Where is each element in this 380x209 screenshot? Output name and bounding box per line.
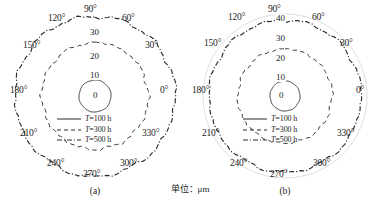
angle-label-a-120: 120°	[48, 13, 65, 23]
angle-label-a-210: 210°	[20, 128, 37, 138]
radial-label-b-0: 0	[278, 91, 285, 100]
angle-label-b-0: 0°	[356, 85, 364, 95]
curve-b-dashdot	[209, 20, 361, 172]
angle-label-b-330: 330°	[337, 128, 354, 138]
angle-label-a-0: 0°	[160, 85, 168, 95]
angle-label-b-270: 270°	[270, 169, 287, 179]
angle-label-a-90: 90°	[84, 4, 97, 14]
legend-label-a-2: T=500 h	[85, 135, 111, 146]
angle-label-b-240: 240°	[230, 158, 247, 168]
angle-label-b-60: 60°	[312, 12, 325, 22]
polar-panel-b: 90° 120° 60° 150° 30° 180° 0° 210° 330° …	[190, 0, 380, 195]
angle-label-a-150: 150°	[23, 40, 40, 50]
radial-label-a-10: 10	[89, 71, 100, 80]
radial-label-b-40: 40	[275, 14, 286, 23]
legend-label-a-0: T=100 h	[85, 114, 111, 125]
angle-label-b-210: 210°	[202, 128, 219, 138]
angle-label-a-270: 270°	[83, 169, 100, 179]
angle-label-b-300: 300°	[313, 158, 330, 168]
radial-label-a-20: 20	[89, 52, 100, 61]
unit-caption: 单位：μm	[0, 182, 380, 195]
legend-key-dashed-icon	[56, 126, 82, 134]
polar-panel-a: 90° 120° 60° 150° 30° 180° 0° 210° 330° …	[0, 0, 190, 195]
angle-label-b-150: 150°	[204, 38, 221, 48]
angle-label-b-30: 30°	[340, 38, 353, 48]
angle-label-a-330: 330°	[142, 128, 159, 138]
legend-key-solid-icon	[242, 115, 268, 123]
angle-label-a-240: 240°	[47, 158, 64, 168]
legend-item-b-2: T=500 h	[242, 135, 330, 146]
legend-item-a-1: T=300 h	[56, 125, 144, 136]
angle-label-b-180: 180°	[192, 85, 209, 95]
polar-chart-figure: 90° 120° 60° 150° 30° 180° 0° 210° 330° …	[0, 0, 380, 209]
angle-label-a-60: 60°	[122, 13, 135, 23]
legend-key-dashdot-icon	[242, 136, 268, 144]
radial-label-b-20: 20	[275, 54, 286, 63]
angle-label-a-300: 300°	[120, 158, 137, 168]
polar-plot-b	[190, 0, 380, 195]
legend-key-solid-icon	[56, 115, 82, 123]
radial-label-a-0: 0	[92, 91, 99, 100]
legend-key-dashdot-icon	[56, 136, 82, 144]
legend-item-b-1: T=300 h	[242, 125, 330, 136]
legend-b: T=100 h T=300 h T=500 h	[242, 114, 330, 146]
legend-a: T=100 h T=300 h T=500 h	[56, 114, 144, 146]
curve-b-solid	[270, 81, 300, 111]
legend-label-b-1: T=300 h	[271, 125, 297, 136]
radial-label-a-30: 30	[89, 28, 100, 37]
angle-label-a-30: 30°	[145, 40, 158, 50]
legend-label-a-1: T=300 h	[85, 125, 111, 136]
radial-label-b-30: 30	[275, 34, 286, 43]
legend-key-dashed-icon	[242, 126, 268, 134]
legend-item-b-0: T=100 h	[242, 114, 330, 125]
radial-label-b-10: 10	[275, 73, 286, 82]
legend-item-a-2: T=500 h	[56, 135, 144, 146]
legend-item-a-0: T=100 h	[56, 114, 144, 125]
legend-label-b-0: T=100 h	[271, 114, 297, 125]
angle-label-b-120: 120°	[228, 12, 245, 22]
legend-label-b-2: T=500 h	[271, 135, 297, 146]
angle-label-a-180: 180°	[10, 85, 27, 95]
